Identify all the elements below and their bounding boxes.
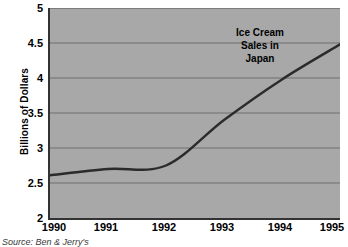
annotation-line-2: Sales in <box>218 39 302 52</box>
x-tick-label: 1995 <box>320 221 344 233</box>
y-tick-label: 2.5 <box>28 177 43 189</box>
chart-figure: Billions of Dollars 22.533.544.55 Ice Cr… <box>0 0 348 247</box>
x-axis-tick-labels: 199019911992199319941995 <box>0 221 348 237</box>
x-tick-label: 1990 <box>42 221 66 233</box>
y-tick-label: 4 <box>37 72 43 84</box>
y-axis-tick-labels: 22.533.544.55 <box>0 0 46 247</box>
y-tick-label: 3.5 <box>28 107 43 119</box>
x-tick-label: 1993 <box>210 221 234 233</box>
annotation-line-1: Ice Cream <box>218 26 302 39</box>
annotation-line-3: Japan <box>218 52 302 65</box>
chart-annotation: Ice Cream Sales in Japan <box>218 26 302 65</box>
x-tick-label: 1992 <box>152 221 176 233</box>
source-note: Source: Ben & Jerry's <box>2 237 89 247</box>
x-tick-label: 1994 <box>268 221 292 233</box>
x-tick-label: 1991 <box>94 221 118 233</box>
y-tick-label: 4.5 <box>28 37 43 49</box>
y-tick-label: 3 <box>37 142 43 154</box>
plot-area: Ice Cream Sales in Japan <box>48 8 340 220</box>
y-tick-label: 5 <box>37 2 43 14</box>
